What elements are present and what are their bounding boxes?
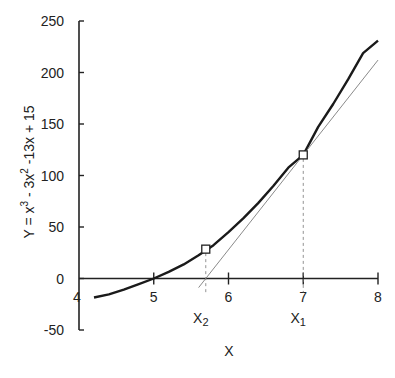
y-tick-label: 150 [41,116,65,132]
x-tick-label: 4 [73,289,81,305]
marker-square [299,151,307,159]
x-tick-label: 6 [225,289,233,305]
newton-method-chart: -5005010015020025045678 X1X2 X Y = x3 - … [0,0,395,378]
y-tick-label: 250 [41,13,65,29]
x-tick-label: 8 [374,289,382,305]
x-axis-title: X [224,343,234,359]
y-tick-label: 50 [48,219,64,235]
tick-labels: -5005010015020025045678 [41,13,382,338]
axes [79,21,378,330]
marker-label: X1 [291,310,306,328]
series [94,41,378,298]
y-tick-label: 0 [56,271,64,287]
y-tick-label: -50 [44,322,64,338]
y-tick-label: 100 [41,168,65,184]
markers: X1X2 [193,151,307,328]
y-axis-title: Y = x3 - 3x2 -13x + 15 [19,105,37,238]
marker-square [202,245,210,253]
x-tick-label: 5 [150,289,158,305]
marker-label: X2 [193,310,208,328]
function-curve [94,41,378,298]
tangent-line [199,60,378,288]
y-tick-label: 200 [41,65,65,81]
